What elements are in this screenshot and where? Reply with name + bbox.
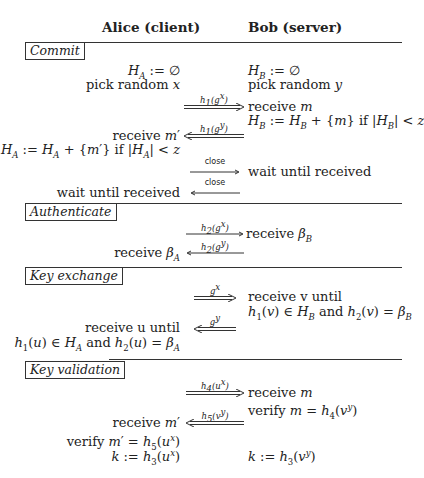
double-right-arrow-icon xyxy=(184,103,244,111)
alice-derive-key: k := h3(ux) xyxy=(111,446,180,469)
alice-wait-until-received: wait until received xyxy=(57,186,180,200)
section-divider xyxy=(99,203,402,204)
message-arrow-h1-gy: h1(gy) xyxy=(184,132,244,140)
double-right-arrow-icon xyxy=(194,294,236,302)
right-arrow-icon xyxy=(186,231,244,237)
alice-update-hA: HA := HA + {m′} if |HA| < z xyxy=(1,143,180,162)
right-arrow-icon xyxy=(190,169,240,175)
alice-pick-random: pick random x xyxy=(86,78,180,92)
alice-receive-m-prime: receive m′ xyxy=(113,129,181,143)
double-right-arrow-icon xyxy=(186,389,244,397)
alice-receive-m-prime-validation: receive m′ xyxy=(113,416,181,430)
message-arrow-gy: gy xyxy=(194,325,236,333)
alice-column-header: Alice (client) xyxy=(102,20,200,34)
bob-derive-key: k := h3(vy) xyxy=(248,446,316,469)
bob-update-hB: HB := HB + {m} if |HB| < z xyxy=(248,114,424,133)
bob-receive-v-until: receive v until xyxy=(248,290,342,304)
section-label-key-validation: Key validation xyxy=(25,361,125,379)
section-divider xyxy=(109,359,402,360)
message-arrow-close-left: close xyxy=(190,190,240,196)
alice-receive-u-condition: h1(u) ∈ HA and h2(u) = βA xyxy=(14,336,180,355)
section-divider xyxy=(77,42,402,43)
section-divider xyxy=(105,267,402,268)
section-label-key-exchange: Key exchange xyxy=(25,267,123,285)
message-arrow-h5-vy: h5(vy) xyxy=(186,419,244,427)
section-commit: Commit xyxy=(25,42,402,60)
bob-receive-m: receive m xyxy=(248,100,313,114)
double-left-arrow-icon xyxy=(184,132,244,140)
alice-receive-beta-a: receive βA xyxy=(114,246,180,265)
section-label-commit: Commit xyxy=(25,42,85,60)
left-arrow-icon xyxy=(190,190,240,196)
bob-pick-random: pick random y xyxy=(248,78,342,92)
message-arrow-gx: gx xyxy=(194,294,236,302)
alice-receive-u-until: receive u until xyxy=(85,321,180,335)
bob-receive-m-validation: receive m xyxy=(248,386,313,400)
bob-column-header: Bob (server) xyxy=(248,20,342,34)
bob-verify-m: verify m = h4(vy) xyxy=(248,400,357,423)
double-left-arrow-icon xyxy=(186,419,244,427)
left-arrow-icon xyxy=(186,250,244,256)
section-label-authenticate: Authenticate xyxy=(25,203,117,221)
double-left-arrow-icon xyxy=(194,325,236,333)
message-arrow-close-right: close xyxy=(190,169,240,175)
message-arrow-h2-gx: h2(gx) xyxy=(186,231,244,237)
message-arrow-h1-gx: h1(gx) xyxy=(184,103,244,111)
bob-wait-until-received: wait until received xyxy=(248,165,371,179)
bob-receive-v-condition: h1(v) ∈ HB and h2(v) = βB xyxy=(248,305,412,324)
message-arrow-h4-ux: h4(ux) xyxy=(186,389,244,397)
message-arrow-h2-gy: h2(gy) xyxy=(186,250,244,256)
bob-receive-beta-b: receive βB xyxy=(246,227,312,246)
